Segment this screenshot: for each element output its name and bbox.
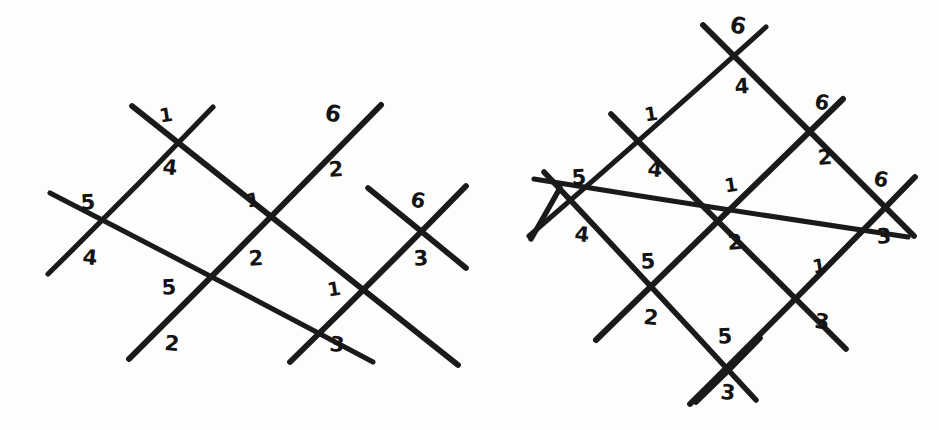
- wire-sw-fall: [544, 172, 756, 400]
- label-2-southwest-below: 2: [643, 307, 660, 329]
- label-3-east-below: 3: [413, 248, 429, 270]
- label-1-southeast-above: 1: [811, 256, 827, 277]
- label-5-south-above: 5: [717, 326, 733, 348]
- label-3-south-below: 3: [720, 382, 737, 404]
- label-2-bottom-left-below: 2: [164, 333, 181, 355]
- label-1-center-above: 1: [723, 175, 739, 196]
- wire-sw-long: [48, 107, 213, 274]
- label-2-northeast-below: 2: [817, 147, 833, 169]
- label-4-west-below: 4: [574, 224, 591, 246]
- wire-nw-outer: [529, 27, 766, 236]
- label-4-top-left-below: 4: [162, 157, 179, 179]
- diagram-canvas: 14541252626313 641462541263521353: [0, 0, 939, 430]
- label-1-top-left-above: 1: [158, 105, 174, 126]
- left-diagram-strokes: [48, 105, 466, 365]
- label-5-bottom-left-above: 5: [161, 277, 177, 299]
- label-1-northwest-above: 1: [643, 104, 659, 125]
- label-1-bottom-right-above: 1: [326, 279, 342, 300]
- wire-mid-fall: [132, 106, 458, 365]
- wire-mid-rise: [129, 105, 381, 359]
- label-1-center-above: 1: [245, 190, 261, 211]
- label-5-southwest-above: 5: [640, 251, 656, 273]
- label-4-northwest-below: 4: [647, 159, 664, 181]
- label-2-center-below: 2: [248, 248, 264, 270]
- label-3-southeast-below: 3: [814, 311, 831, 333]
- label-2-center-below: 2: [727, 232, 743, 254]
- label-4-north-below: 4: [734, 76, 750, 98]
- label-3-east-below: 3: [876, 226, 892, 248]
- label-5-west-above: 5: [571, 167, 587, 189]
- label-3-bottom-right-below: 3: [329, 334, 346, 356]
- wire-east-rise: [290, 186, 466, 362]
- label-2-top-right-below: 2: [328, 159, 344, 181]
- label-5-west-above: 5: [80, 192, 96, 214]
- wiring-diagram-svg: [0, 0, 939, 430]
- label-4-west-below: 4: [82, 247, 99, 269]
